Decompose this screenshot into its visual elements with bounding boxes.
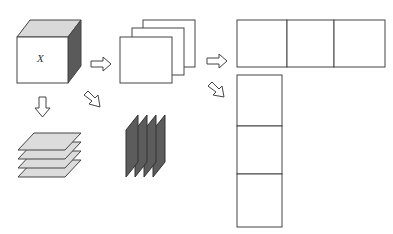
vertical-strip xyxy=(237,75,282,227)
strip-cell xyxy=(237,75,282,126)
arrow-right-icon xyxy=(91,57,111,71)
strip-cell xyxy=(334,20,385,67)
strip-cell xyxy=(237,174,282,227)
strip-cell xyxy=(237,126,282,174)
sheet-front xyxy=(120,37,172,83)
strip-cell xyxy=(287,20,334,67)
arrow-right-icon xyxy=(207,54,227,68)
arrow-diagonal-icon xyxy=(208,82,224,97)
tensor-unfolding-diagram: X xyxy=(0,0,393,234)
horizontal-plates xyxy=(18,133,81,177)
cube-label: X xyxy=(36,52,45,64)
horizontal-strip xyxy=(237,20,385,67)
strip-cell xyxy=(237,20,287,67)
stacked-sheets xyxy=(120,20,195,83)
vertical-slices xyxy=(126,115,165,177)
arrow-down-icon xyxy=(35,97,50,117)
cube-x: X xyxy=(17,20,81,83)
arrow-diagonal-icon xyxy=(84,91,100,107)
